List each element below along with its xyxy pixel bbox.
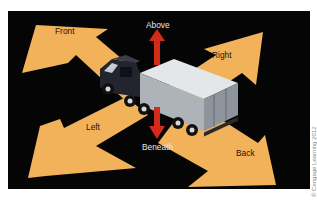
left-arrow-icon <box>28 97 148 178</box>
direction-arrows-diagram <box>8 11 310 189</box>
left-label: Left <box>86 121 100 132</box>
back-label: Back <box>236 147 255 158</box>
front-label: Front <box>55 25 75 36</box>
diagram-panel: Front Right Left Back Above Beneath <box>8 11 310 189</box>
right-label: Right <box>212 49 232 60</box>
copyright-notice: © Cengage Learning 2012 <box>311 127 317 197</box>
beneath-label: Beneath <box>142 141 173 152</box>
above-label: Above <box>146 19 170 30</box>
above-arrow-icon <box>149 29 165 65</box>
